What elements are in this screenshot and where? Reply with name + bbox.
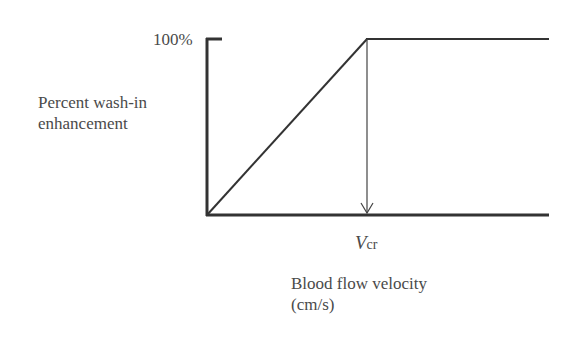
critical-velocity-label: Vcr (355, 232, 378, 255)
ramp-line (207, 39, 367, 215)
y-axis-label-line2: enhancement (38, 113, 147, 134)
x-axis-label: Blood flow velocity (cm/s) (291, 273, 427, 315)
x-axis-label-line1: Blood flow velocity (291, 273, 427, 294)
y-tick-label: 100% (153, 29, 193, 50)
y-axis-label-line1: Percent wash-in (38, 92, 147, 113)
critical-velocity-symbol: V (355, 232, 367, 253)
y-axis-label: Percent wash-in enhancement (38, 92, 147, 134)
diagram-canvas (0, 0, 574, 338)
x-axis-label-line2: (cm/s) (291, 294, 427, 315)
critical-velocity-subscript: cr (367, 237, 378, 252)
